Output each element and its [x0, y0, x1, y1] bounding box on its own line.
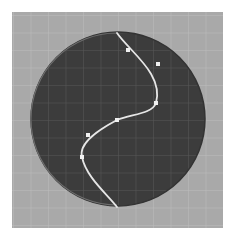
control-point[interactable] — [156, 62, 160, 66]
canvas-svg — [12, 12, 223, 228]
anchor-point[interactable] — [80, 155, 84, 159]
anchor-point[interactable] — [154, 101, 158, 105]
anchor-point[interactable] — [115, 118, 119, 122]
bezier-canvas[interactable] — [12, 12, 223, 228]
control-point[interactable] — [86, 133, 90, 137]
control-point[interactable] — [126, 48, 130, 52]
